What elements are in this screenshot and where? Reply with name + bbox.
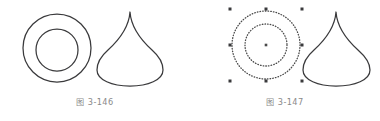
teardrop-outline: [303, 12, 370, 86]
selection-handle-top-center[interactable]: [265, 8, 268, 11]
figure-3-147-artwork: [190, 0, 380, 96]
figure-3-147: 图 3-147: [190, 0, 380, 121]
annulus-outer-circle: [23, 14, 91, 82]
figure-3-147-caption: 图 3-147: [190, 96, 380, 108]
figure-3-146: 图 3-146: [0, 0, 190, 121]
annulus-inner-circle: [36, 29, 78, 71]
selection-center-marker: [265, 44, 268, 47]
teardrop-outline: [97, 12, 163, 86]
selection-handle-bottom-left[interactable]: [229, 80, 232, 83]
selection-handle-bottom-right[interactable]: [301, 80, 304, 83]
figure-3-146-caption: 图 3-146: [0, 96, 190, 108]
selection-handle-middle-right[interactable]: [301, 44, 304, 47]
selection-handle-top-left[interactable]: [229, 8, 232, 11]
selection-handle-top-right[interactable]: [301, 8, 304, 11]
figure-3-146-artwork: [0, 0, 190, 96]
selection-handle-bottom-center[interactable]: [265, 80, 268, 83]
figure-sheet: 图 3-146: [0, 0, 380, 121]
selection-handle-middle-left[interactable]: [229, 44, 232, 47]
